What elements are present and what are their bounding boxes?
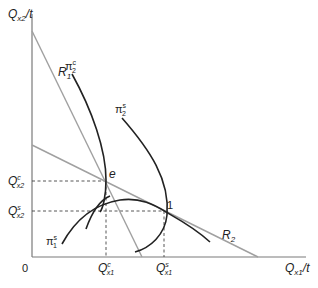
tick-qx2s: Qsx2	[8, 204, 24, 219]
isoprofit-pi2s	[122, 118, 167, 252]
label-r2: R2	[222, 228, 236, 244]
stackelberg-diagram: Qx2/t Qx1/t 0 R1 R2 πc2 πs2 πs1 e 1 Qcx2…	[0, 0, 318, 288]
x-axis-label: Qx1/t	[285, 261, 310, 277]
point-e-label: e	[109, 167, 116, 181]
origin-label: 0	[22, 262, 28, 274]
label-pi2s: πs2	[115, 102, 127, 117]
y-axis-label: Qx2/t	[8, 7, 33, 23]
tick-qx2c: Qcx2	[8, 174, 24, 189]
label-pi2c: πc2	[65, 59, 77, 74]
point-1-label: 1	[167, 199, 173, 211]
reaction-line-r1	[32, 31, 142, 257]
label-pi1s: πs1	[46, 234, 58, 249]
isoprofit-pi2c	[72, 74, 106, 212]
tick-qx1s: Qsx1	[156, 261, 172, 276]
tick-qx1c: Qcx1	[98, 261, 114, 276]
